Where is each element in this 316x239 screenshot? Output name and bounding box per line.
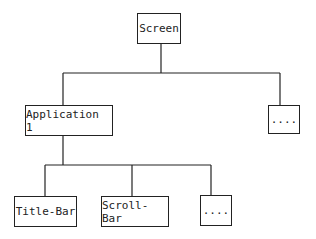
node-more-components: .... — [200, 195, 232, 226]
node-label: .... — [203, 204, 230, 217]
node-label: Scroll-Bar — [102, 199, 168, 225]
node-scroll-bar: Scroll-Bar — [101, 196, 169, 227]
node-label: Application 1 — [26, 108, 112, 134]
node-label: Screen — [139, 22, 179, 35]
node-title-bar: Title-Bar — [14, 196, 77, 227]
node-label: Title-Bar — [16, 205, 76, 218]
node-screen: Screen — [137, 13, 181, 44]
node-label: .... — [271, 113, 298, 126]
node-more-applications: .... — [268, 105, 300, 134]
node-application-1: Application 1 — [25, 105, 113, 136]
